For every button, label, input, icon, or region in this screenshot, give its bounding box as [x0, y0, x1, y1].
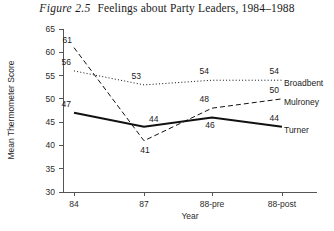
series-name-labels: BroadbentMulroneyTurner	[284, 78, 324, 135]
series-line-broadbent	[74, 71, 282, 85]
point-label: 54	[200, 66, 210, 76]
y-tick-label: 50	[46, 94, 56, 104]
point-label: 50	[270, 85, 280, 95]
x-tick-label: 88-post	[268, 199, 297, 209]
point-label: 44	[149, 114, 159, 124]
series-lines	[74, 48, 282, 141]
x-axis-title: Year	[181, 211, 198, 221]
x-tick-label: 84	[69, 199, 79, 209]
line-chart: 3035404550556065 848788-pre88-post 56535…	[0, 0, 334, 231]
y-axis: 3035404550556065	[46, 24, 63, 197]
y-tick-label: 55	[46, 71, 56, 81]
point-label: 54	[270, 66, 280, 76]
point-label: 53	[132, 71, 142, 81]
point-label: 56	[62, 57, 72, 67]
point-label: 48	[200, 94, 210, 104]
data-point-labels: 565354546141485047444644	[62, 35, 280, 155]
figure-container: Figure 2.5Feelings about Party Leaders, …	[0, 0, 334, 231]
y-tick-label: 45	[46, 117, 56, 127]
x-tick-label: 87	[139, 199, 149, 209]
y-tick-label: 40	[46, 140, 56, 150]
y-tick-label: 65	[46, 24, 56, 34]
x-axis: 848788-pre88-post	[63, 192, 317, 209]
y-tick-label: 35	[46, 164, 56, 174]
point-label: 61	[63, 35, 73, 45]
point-label: 47	[62, 99, 72, 109]
series-label-mulroney: Mulroney	[284, 97, 320, 107]
point-label: 46	[205, 120, 215, 130]
series-label-broadbent: Broadbent	[284, 78, 324, 88]
x-tick-label: 88-pre	[200, 199, 225, 209]
series-label-turner: Turner	[284, 125, 309, 135]
y-tick-label: 30	[46, 187, 56, 197]
point-label: 44	[270, 113, 280, 123]
y-tick-label: 60	[46, 47, 56, 57]
y-axis-title: Mean Thermometer Score	[6, 60, 16, 159]
point-label: 41	[140, 145, 150, 155]
series-line-mulroney	[74, 48, 282, 141]
